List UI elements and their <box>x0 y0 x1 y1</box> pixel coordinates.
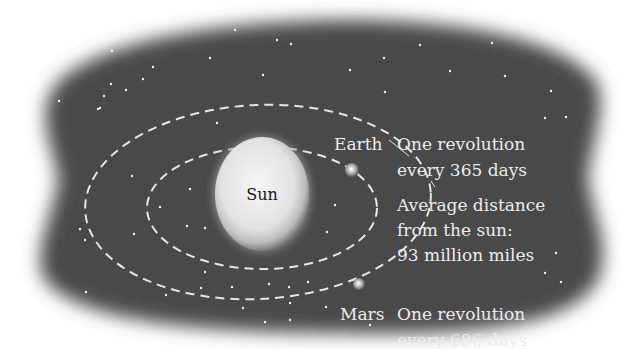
sun-label: Sun <box>246 185 278 204</box>
distance-line3: 93 million miles <box>397 245 534 265</box>
mars-label: Mars <box>340 304 384 324</box>
earth-info-line2: every 365 days <box>397 160 527 180</box>
earth-planet <box>345 163 359 177</box>
earth-label: Earth <box>334 134 383 154</box>
mars-planet <box>353 278 365 290</box>
earth-info-line1: One revolution <box>397 134 525 154</box>
solar-orbit-diagram: Sun Earth One revolution every 365 days … <box>0 0 625 349</box>
mars-info-line2: every 686 days <box>397 330 527 349</box>
distance-line1: Average distance <box>396 195 545 215</box>
distance-line2: from the sun: <box>397 220 513 240</box>
mars-info-line1: One revolution <box>397 304 525 324</box>
